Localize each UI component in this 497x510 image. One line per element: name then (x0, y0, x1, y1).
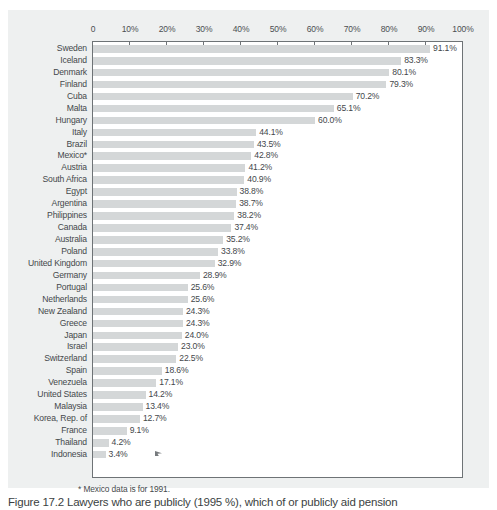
bar (93, 152, 251, 160)
chart-row: United Kingdom32.9% (8, 258, 489, 270)
category-label: France (8, 425, 87, 437)
figure-panel: 010%20%30%40%50%60%70%80%90%100% Sweden9… (8, 10, 489, 488)
bar-value-label: 33.8% (221, 246, 245, 258)
category-label: Italy (8, 127, 87, 139)
category-label: Cuba (8, 91, 87, 103)
bar (93, 332, 182, 340)
category-label: Australia (8, 234, 87, 246)
chart-row: Brazil43.5% (8, 139, 489, 151)
bar-value-label: 80.1% (392, 67, 416, 79)
x-axis-tick-label: 90% (418, 24, 435, 34)
bar-track (93, 318, 463, 330)
category-label: Netherlands (8, 294, 87, 306)
bar-value-label: 60.0% (318, 115, 342, 127)
chart-row: Austria41.2% (8, 162, 489, 174)
bar (93, 188, 237, 196)
bar-value-label: 40.9% (247, 174, 271, 186)
x-axis-tick-label: 30% (196, 24, 213, 34)
chart-row: Hungary60.0% (8, 115, 489, 127)
bar (93, 355, 176, 363)
figure-footnote: * Mexico data is for 1991. (78, 484, 170, 494)
chart-row: Australia35.2% (8, 234, 489, 246)
chart-row: Switzerland22.5% (8, 353, 489, 365)
bar (93, 343, 178, 351)
category-label: Argentina (8, 198, 87, 210)
bar-track (93, 186, 463, 198)
bar (93, 284, 188, 292)
category-label: Canada (8, 222, 87, 234)
bar-track (93, 282, 463, 294)
bar (93, 45, 430, 53)
bar-track (93, 91, 463, 103)
chart-row: Italy44.1% (8, 127, 489, 139)
bar (93, 141, 254, 149)
bar-value-label: 12.7% (143, 413, 167, 425)
category-label: South Africa (8, 174, 87, 186)
chart-row: Poland33.8% (8, 246, 489, 258)
bar-track (93, 437, 463, 449)
bar-value-label: 32.9% (218, 258, 242, 270)
bar-value-label: 13.4% (146, 401, 170, 413)
category-label: Malta (8, 103, 87, 115)
x-axis-tick-label: 50% (270, 24, 287, 34)
chart-row: Indonesia3.4% (8, 449, 489, 461)
bar-value-label: 25.6% (191, 282, 215, 294)
bar-value-label: 65.1% (337, 103, 361, 115)
bar-value-label: 22.5% (179, 353, 203, 365)
bar (93, 367, 162, 375)
bar (93, 176, 244, 184)
category-label: Venezuela (8, 377, 87, 389)
bar-value-label: 35.2% (226, 234, 250, 246)
bar (93, 308, 183, 316)
bar-value-label: 17.1% (159, 377, 183, 389)
bar-value-label: 43.5% (257, 139, 281, 151)
bar-track (93, 150, 463, 162)
bar-value-label: 38.2% (237, 210, 261, 222)
chart-row: Netherlands25.6% (8, 294, 489, 306)
chart-row: Germany28.9% (8, 270, 489, 282)
bar-track (93, 330, 463, 342)
bar (93, 272, 200, 280)
bar-value-label: 25.6% (191, 294, 215, 306)
x-axis-tick-label: 0 (91, 24, 96, 34)
category-label: Japan (8, 330, 87, 342)
category-label: New Zealand (8, 306, 87, 318)
chart-row: Spain18.6% (8, 365, 489, 377)
category-label: Indonesia (8, 449, 87, 461)
chart-row: Thailand4.2% (8, 437, 489, 449)
x-axis-tick-label: 10% (122, 24, 139, 34)
bar-track (93, 210, 463, 222)
x-axis-tick-label: 40% (233, 24, 250, 34)
bar-track (93, 246, 463, 258)
bar-value-label: 4.2% (112, 437, 131, 449)
chart-row: Malaysia13.4% (8, 401, 489, 413)
bar-value-label: 3.4% (109, 449, 128, 461)
x-axis-tick-label: 20% (159, 24, 176, 34)
bar (93, 439, 109, 447)
bar-value-label: 9.1% (130, 425, 149, 437)
bar-track (93, 353, 463, 365)
chart-row: Cuba70.2% (8, 91, 489, 103)
bar-value-label: 91.1% (433, 43, 457, 55)
bar-track (93, 365, 463, 377)
bar-value-label: 83.3% (404, 55, 428, 67)
bar-track (93, 174, 463, 186)
bar-value-label: 79.3% (389, 79, 413, 91)
chart-row: Denmark80.1% (8, 67, 489, 79)
bar-track (93, 115, 463, 127)
figure-caption: Figure 17.2 Lawyers who are publicly (19… (8, 496, 489, 508)
category-label: Finland (8, 79, 87, 91)
bar-value-label: 42.8% (254, 150, 278, 162)
chart-row: Iceland83.3% (8, 55, 489, 67)
bar-value-label: 44.1% (259, 127, 283, 139)
x-axis-tick-label: 80% (381, 24, 398, 34)
chart-row: Greece24.3% (8, 318, 489, 330)
category-label: Austria (8, 162, 87, 174)
bar-track (93, 341, 463, 353)
chart-rows: Sweden91.1%Iceland83.3%Denmark80.1%Finla… (8, 43, 489, 461)
x-axis-tick-label: 100% (452, 24, 473, 34)
bar-value-label: 24.0% (185, 330, 209, 342)
category-label: Korea, Rep. of (8, 413, 87, 425)
bar-track (93, 377, 463, 389)
category-label: Thailand (8, 437, 87, 449)
